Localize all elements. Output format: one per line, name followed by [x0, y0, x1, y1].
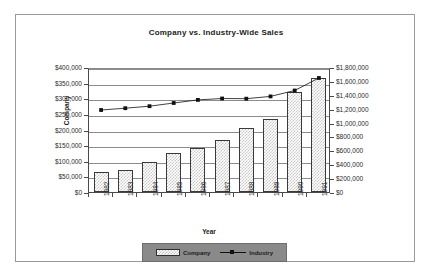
chart-screenshot: Company vs. Industry-Wide Sales Company …: [0, 0, 433, 279]
x-axis-tick: [112, 193, 113, 197]
chart-frame: Company vs. Industry-Wide Sales Company …: [15, 14, 415, 262]
left-axis-tick: [84, 131, 88, 132]
legend-entry-industry[interactable]: Industry: [220, 249, 273, 256]
x-axis-tick-label: 1983: [127, 182, 134, 196]
line-marker[interactable]: [269, 95, 273, 99]
line-marker[interactable]: [196, 98, 200, 102]
left-axis-tick-label: $300,000: [34, 95, 82, 102]
right-axis-tick: [330, 124, 334, 125]
x-axis-title: Year: [88, 228, 330, 235]
line-marker[interactable]: [317, 76, 321, 80]
legend-label: Company: [183, 250, 210, 256]
left-axis-tick: [84, 177, 88, 178]
right-axis-tick-label: $200,000: [336, 175, 363, 182]
x-axis-tick: [136, 193, 137, 197]
x-axis-tick-label: 1986: [200, 182, 207, 196]
right-axis-tick: [330, 179, 334, 180]
x-axis-tick-label: 1982: [103, 182, 110, 196]
left-axis-tick-label: $0: [34, 189, 82, 196]
right-axis-tick: [330, 165, 334, 166]
right-axis-tick-label: $800,000: [336, 133, 363, 140]
left-axis-tick: [84, 146, 88, 147]
right-axis-tick: [330, 151, 334, 152]
left-axis-tick: [84, 68, 88, 69]
legend-label: Industry: [249, 250, 273, 256]
right-axis-tick-label: $1,400,000: [336, 92, 369, 99]
x-axis-tick: [161, 193, 162, 197]
chart-legend: Company Industry: [142, 243, 287, 262]
x-axis-tick-label: 1985: [176, 182, 183, 196]
left-axis-tick-label: $50,000: [34, 173, 82, 180]
x-axis-tick-label: 1988: [248, 182, 255, 196]
left-axis-tick-label: $100,000: [34, 158, 82, 165]
right-axis-tick: [330, 68, 334, 69]
x-axis-tick: [185, 193, 186, 197]
x-axis-tick: [282, 193, 283, 197]
left-axis-tick: [84, 84, 88, 85]
line-marker[interactable]: [220, 97, 224, 101]
x-axis-tick: [233, 193, 234, 197]
right-axis-tick-label: $600,000: [336, 147, 363, 154]
line-marker[interactable]: [123, 106, 127, 110]
right-axis-tick-label: $1,000,000: [336, 120, 369, 127]
chart-title: Company vs. Industry-Wide Sales: [16, 28, 416, 37]
left-axis-tick-label: $250,000: [34, 111, 82, 118]
plot-area: [88, 68, 330, 193]
right-axis-tick: [330, 96, 334, 97]
x-axis-tick: [209, 193, 210, 197]
right-axis-tick-label: $1,800,000: [336, 64, 369, 71]
right-axis-tick-label: $0: [336, 189, 343, 196]
x-axis-tick-label: 1987: [224, 182, 231, 196]
line-marker[interactable]: [244, 97, 248, 101]
line-series: [89, 69, 331, 194]
left-axis-tick: [84, 99, 88, 100]
left-axis-tick: [84, 162, 88, 163]
right-axis-tick: [330, 137, 334, 138]
left-axis-tick-label: $400,000: [34, 64, 82, 71]
x-axis-tick-label: 1984: [152, 182, 159, 196]
line-marker[interactable]: [148, 104, 152, 108]
right-axis-tick: [330, 82, 334, 83]
right-axis-tick: [330, 110, 334, 111]
left-axis-tick-label: $350,000: [34, 80, 82, 87]
bar-swatch-icon: [156, 249, 180, 256]
legend-entry-company[interactable]: Company: [156, 249, 210, 256]
x-axis-tick: [306, 193, 307, 197]
right-axis-tick-label: $400,000: [336, 161, 363, 168]
left-axis-tick-label: $150,000: [34, 142, 82, 149]
right-axis-tick: [330, 193, 334, 194]
line-marker[interactable]: [293, 89, 297, 93]
x-axis-tick: [88, 193, 89, 197]
left-axis-tick-label: $200,000: [34, 127, 82, 134]
x-axis-tick-label: 1991: [321, 182, 328, 196]
line-marker-icon: [220, 249, 246, 256]
x-axis-tick-label: 1989: [273, 182, 280, 196]
line-marker[interactable]: [99, 108, 103, 112]
left-axis-tick: [84, 115, 88, 116]
x-axis-tick: [257, 193, 258, 197]
right-axis-tick-label: $1,200,000: [336, 106, 369, 113]
right-axis-tick-label: $1,600,000: [336, 78, 369, 85]
x-axis-tick-label: 1990: [297, 182, 304, 196]
line-marker[interactable]: [172, 101, 176, 105]
